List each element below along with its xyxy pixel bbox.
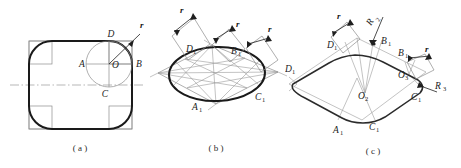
panel-b-ellipse-construction: r r r D 1 B 1 A 1 C (150, 0, 290, 168)
label-O3-group: O 3 (398, 70, 408, 81)
label-B1: B (231, 46, 237, 56)
label-C1-right: C (411, 92, 418, 102)
label-r: r (140, 20, 144, 30)
label-D1-left: D (285, 64, 292, 74)
technical-figure: D r B A O C ( a ) (0, 0, 461, 168)
label-C: C (102, 89, 109, 99)
label-O3: O (398, 70, 405, 80)
R3-leader (417, 82, 437, 92)
label-D1-top-subscript: 1 (334, 44, 337, 51)
radius-lines-to-O2 (345, 38, 382, 93)
r-dimension-block-right (407, 53, 434, 79)
label-D1-left-subscript: 1 (292, 68, 295, 75)
label-D: D (107, 29, 115, 39)
label-B: B (136, 59, 142, 69)
label-r-right: r (425, 44, 429, 54)
label-A1-subscript: 1 (199, 106, 202, 113)
label-A1-subscript: 1 (340, 129, 343, 136)
panel-b-caption: ( b ) (209, 143, 224, 153)
label-D1-top-group: D 1 (326, 40, 337, 51)
label-R2-subscript: 2 (374, 16, 382, 22)
label-C1-group: C 1 (255, 92, 265, 103)
label-O: O (112, 60, 119, 70)
rhombus-edge-extension-left-lower (150, 73, 158, 77)
label-C1: C (255, 92, 262, 102)
label-r-left: r (180, 5, 184, 15)
label-R3-group: R 3 (434, 81, 446, 92)
label-O2: O (358, 91, 365, 101)
point-B1-top-marker (372, 42, 375, 45)
label-B1-subscript: 1 (238, 50, 241, 57)
label-C1-bottom-group: C 1 (369, 122, 379, 133)
rhombus-edge-extension-bottom (208, 104, 216, 110)
label-B1-top-subscript: 1 (388, 40, 391, 47)
label-r-top: r (337, 11, 341, 21)
inner-triangle-bottom (338, 78, 375, 120)
label-C1-right-subscript: 1 (418, 96, 421, 103)
label-B1-right-subscript: 1 (405, 52, 408, 59)
panel-a-rounded-rectangle: D r B A O C ( a ) (0, 0, 152, 168)
label-R3: R (434, 81, 441, 91)
label-C1-bottom-subscript: 1 (376, 126, 379, 133)
label-C1-bottom: C (369, 122, 376, 132)
label-B1-top: B (381, 36, 387, 46)
label-r-middle: r (236, 19, 240, 29)
label-D1-subscript: 1 (193, 48, 196, 55)
label-A1-group: A 1 (191, 102, 202, 113)
label-B1-right-group: B 1 (398, 48, 408, 59)
panel-c-caption: ( c ) (366, 146, 381, 156)
label-O2-subscript: 2 (365, 95, 368, 102)
label-A1: A (191, 102, 198, 112)
label-C1-subscript: 1 (262, 96, 265, 103)
panel-a-caption: ( a ) (73, 143, 88, 153)
label-O3-subscript: 3 (405, 74, 408, 81)
label-r-right: r (268, 24, 272, 34)
label-D1-left-group: D 1 (285, 64, 295, 75)
label-A1-group: A 1 (332, 125, 343, 136)
label-B1-top-group: B 1 (381, 36, 391, 47)
label-R3-subscript: 3 (443, 85, 446, 92)
label-B1-right: B (398, 48, 404, 58)
panel-c-rotated-rounded-shape: r R 2 D 1 B 1 D 1 B 1 (285, 0, 461, 168)
label-A: A (78, 59, 85, 69)
label-D1: D (185, 44, 193, 54)
label-B1-group: B 1 (231, 46, 241, 57)
label-D1-group: D 1 (185, 44, 196, 55)
label-D1-top: D (326, 40, 334, 50)
label-A1: A (332, 125, 339, 135)
label-O2-group: O 2 (358, 91, 368, 102)
